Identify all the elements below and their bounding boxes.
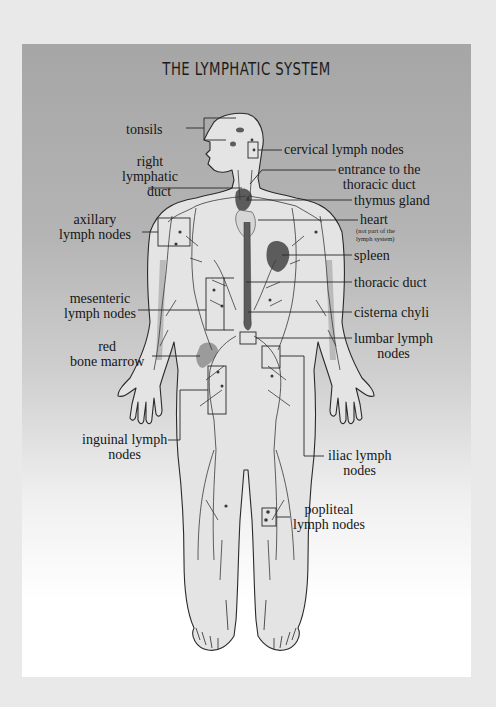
label-inguinal-lymph-nodes: inguinal lymph nodes — [82, 432, 167, 462]
label-text: tonsils — [126, 122, 163, 137]
label-thymus-gland: thymus gland — [354, 193, 430, 208]
label-entrance-thoracic-duct: entrance to the thoracic duct — [338, 162, 420, 192]
label-cisterna-chyli: cisterna chyli — [354, 305, 429, 320]
label-line: thoracic duct — [338, 177, 420, 192]
label-line: mesenteric — [64, 291, 136, 306]
label-line: nodes — [354, 346, 433, 361]
label-line: lymph nodes — [293, 517, 365, 532]
label-lumbar-lymph-nodes: lumbar lymph nodes — [354, 331, 433, 361]
label-note: (not part of the — [356, 227, 395, 235]
label-text: cervical lymph nodes — [284, 142, 404, 157]
label-line: iliac lymph — [328, 448, 391, 463]
label-text: heart — [360, 212, 388, 227]
label-line: lymph nodes — [64, 306, 136, 321]
label-text: thymus gland — [354, 193, 430, 208]
label-axillary-lymph-nodes: axillary lymph nodes — [59, 212, 131, 242]
label-line: lumbar lymph — [354, 331, 433, 346]
label-line: red — [70, 339, 144, 354]
thoracic-duct-shape — [244, 222, 251, 330]
label-popliteal-lymph-nodes: popliteal lymph nodes — [293, 502, 365, 532]
label-line: nodes — [82, 447, 167, 462]
label-right-lymphatic-duct: right lymphatic duct — [122, 154, 178, 199]
diagram-panel: THE LYMPHATIC SYSTEM — [22, 44, 471, 677]
label-line: entrance to the — [338, 162, 420, 177]
label-spleen: spleen — [354, 248, 390, 263]
label-heart: heart (not part of the lymph system) — [360, 212, 395, 242]
label-line: popliteal — [293, 502, 365, 517]
label-thoracic-duct: thoracic duct — [354, 275, 427, 290]
label-note: lymph system) — [356, 235, 395, 243]
label-red-bone-marrow: red bone marrow — [70, 339, 144, 369]
label-line: right — [122, 154, 178, 169]
label-text: thoracic duct — [354, 275, 427, 290]
label-line: bone marrow — [70, 354, 144, 369]
label-iliac-lymph-nodes: iliac lymph nodes — [328, 448, 391, 478]
label-line: inguinal lymph — [82, 432, 167, 447]
label-tonsils: tonsils — [126, 122, 163, 137]
label-line: axillary — [59, 212, 131, 227]
label-cervical-lymph-nodes: cervical lymph nodes — [284, 142, 404, 157]
label-line: nodes — [328, 463, 391, 478]
label-line: duct — [140, 184, 178, 199]
label-mesenteric-lymph-nodes: mesenteric lymph nodes — [64, 291, 136, 321]
label-line: lymph nodes — [59, 227, 131, 242]
label-text: cisterna chyli — [354, 305, 429, 320]
label-line: lymphatic — [122, 169, 178, 184]
label-text: spleen — [354, 248, 390, 263]
